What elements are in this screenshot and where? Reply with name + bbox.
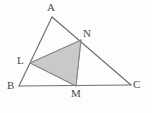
geometry-figure: A B C L M N xyxy=(0,0,152,113)
segment-ab xyxy=(19,17,52,86)
vertex-label-a: A xyxy=(47,2,55,13)
vertex-label-c: C xyxy=(133,79,140,90)
vertex-label-b: B xyxy=(7,80,14,91)
vertex-label-m: M xyxy=(71,88,81,99)
vertex-label-n: N xyxy=(83,28,91,39)
vertex-label-l: L xyxy=(17,55,24,66)
